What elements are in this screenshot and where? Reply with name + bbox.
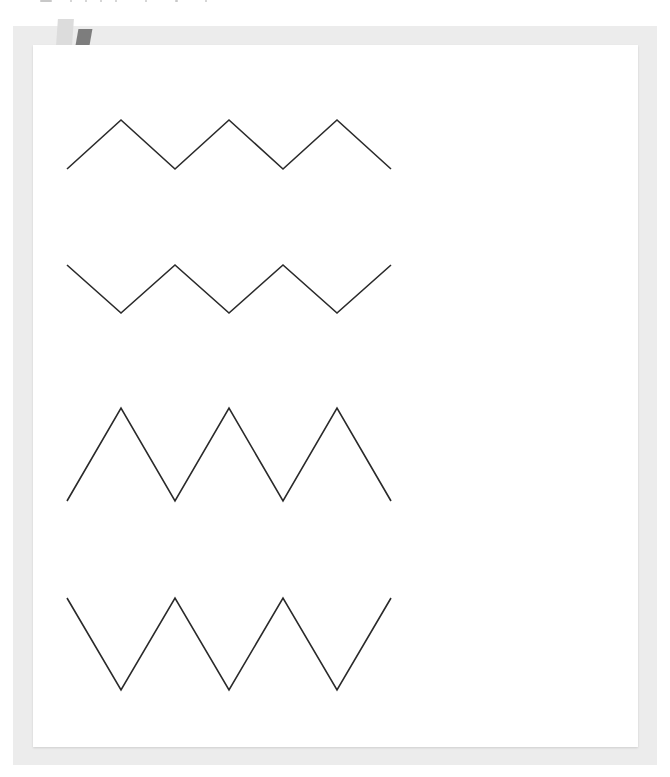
zigzag-drawing — [0, 0, 670, 777]
zigzag-row-3 — [67, 408, 391, 501]
zigzag-row-4 — [67, 598, 391, 690]
zigzag-row-1 — [67, 120, 391, 169]
worksheet-stage — [0, 0, 670, 777]
zigzag-row-2 — [67, 265, 391, 313]
